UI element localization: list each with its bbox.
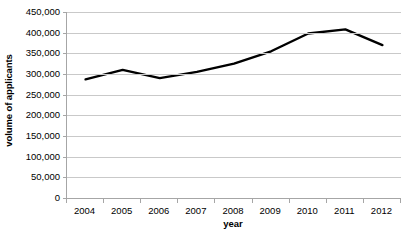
- y-axis-tickmark: [63, 33, 67, 34]
- x-axis-tick-label: 2005: [102, 205, 142, 216]
- y-axis-tickmark: [63, 157, 67, 158]
- y-axis-tickmark: [63, 12, 67, 13]
- x-axis-tick-label: 2010: [287, 205, 327, 216]
- x-axis-tick-label: 2011: [324, 205, 364, 216]
- gridline: [67, 177, 401, 178]
- x-axis-tickmark: [214, 198, 215, 203]
- y-axis-tick-label: 50,000: [14, 172, 60, 182]
- data-series-line: [67, 12, 401, 198]
- plot-area: [66, 12, 401, 198]
- y-axis-tick-label: 250,000: [14, 90, 60, 100]
- x-axis-tickmark: [177, 198, 178, 203]
- gridline: [67, 53, 401, 54]
- y-axis-tickmark: [63, 136, 67, 137]
- gridline: [67, 115, 401, 116]
- y-axis-tick-label: 400,000: [14, 28, 60, 38]
- x-axis-tick-label: 2007: [176, 205, 216, 216]
- x-axis-tick-label: 2012: [361, 205, 401, 216]
- y-axis-tickmark: [63, 95, 67, 96]
- y-axis-tickmark: [63, 53, 67, 54]
- gridline: [67, 74, 401, 75]
- x-axis-tickmark: [289, 198, 290, 203]
- x-axis-tickmark: [140, 198, 141, 203]
- x-axis-tick-label: 2004: [65, 205, 105, 216]
- x-axis-title: year: [66, 218, 400, 229]
- gridline: [67, 12, 401, 13]
- bottom-cropped-text: [8, 244, 188, 249]
- x-axis-tickmark: [326, 198, 327, 203]
- x-axis-tickmark: [363, 198, 364, 203]
- gridline: [67, 33, 401, 34]
- gridline: [67, 95, 401, 96]
- gridline: [67, 157, 401, 158]
- x-axis-tickmark: [252, 198, 253, 203]
- y-axis-tickmark: [63, 177, 67, 178]
- y-axis-tick-label: 0: [14, 193, 60, 203]
- y-axis-tick-label: 100,000: [14, 152, 60, 162]
- y-axis-tick-labels: 050,000100,000150,000200,000250,000300,0…: [16, 0, 64, 210]
- y-axis-tick-label: 350,000: [14, 48, 60, 58]
- x-axis-tickmark: [400, 198, 401, 203]
- x-axis-tickmark: [66, 198, 67, 203]
- x-axis-tickmark: [103, 198, 104, 203]
- y-axis-tick-label: 200,000: [14, 110, 60, 120]
- x-axis-tick-label: 2008: [213, 205, 253, 216]
- y-axis-title-label: volume of applicants: [3, 54, 14, 147]
- y-axis-tick-label: 300,000: [14, 69, 60, 79]
- series-polyline: [86, 29, 383, 79]
- y-axis-tick-label: 450,000: [14, 7, 60, 17]
- y-axis-tick-label: 150,000: [14, 131, 60, 141]
- y-axis-tickmark: [63, 115, 67, 116]
- x-axis-tick-label: 2009: [250, 205, 290, 216]
- x-axis-tick-label: 2006: [139, 205, 179, 216]
- gridline: [67, 136, 401, 137]
- x-axis-line: [66, 198, 400, 199]
- y-axis-tickmark: [63, 74, 67, 75]
- line-chart: volume of applicants 050,000100,000150,0…: [0, 0, 413, 249]
